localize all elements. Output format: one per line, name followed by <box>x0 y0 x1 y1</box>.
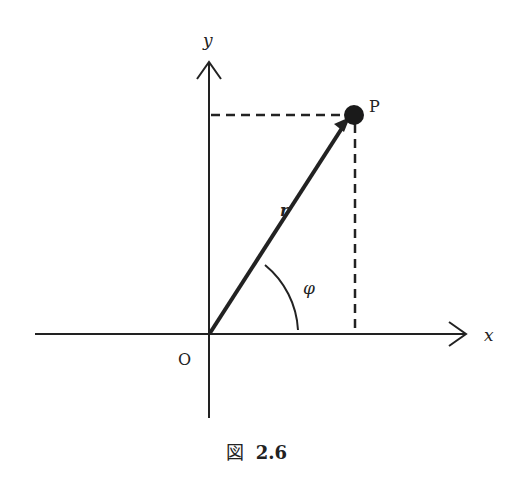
x-axis <box>35 322 466 346</box>
point-p-label: P <box>369 97 380 116</box>
point-p-dot <box>344 105 364 125</box>
caption-prefix: 図 <box>226 442 244 463</box>
x-axis-label: x <box>484 325 494 345</box>
angle-arc <box>265 265 298 330</box>
figure-caption: 図 2.6 <box>226 442 287 463</box>
y-axis-label: y <box>202 30 213 50</box>
origin-label: O <box>178 350 191 369</box>
angle-phi-label: φ <box>303 278 315 298</box>
caption-number: 2.6 <box>256 442 287 463</box>
polar-coordinate-diagram: y x O P r φ 図 2.6 <box>0 0 524 490</box>
position-vector <box>210 117 350 333</box>
